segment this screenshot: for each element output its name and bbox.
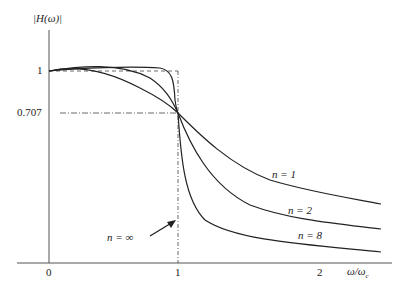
x-tick-2: 2 xyxy=(317,266,323,278)
chart-plot xyxy=(0,0,406,291)
x-axis-label: ω/ωc xyxy=(347,265,369,280)
label-n2: n = 2 xyxy=(288,204,312,216)
curve-n1 xyxy=(49,68,381,204)
label-ninf: n = ∞ xyxy=(107,231,133,243)
arrow-head-icon xyxy=(167,220,176,228)
y-axis-label: |H(ω)| xyxy=(33,12,62,24)
label-n1: n = 1 xyxy=(272,168,296,180)
label-n8: n = 8 xyxy=(298,229,322,241)
x-tick-0: 0 xyxy=(46,266,52,278)
y-tick-1: 1 xyxy=(37,64,43,76)
curve-n8 xyxy=(49,67,381,252)
y-tick-0707: 0.707 xyxy=(17,106,42,118)
x-tick-1: 1 xyxy=(175,266,181,278)
